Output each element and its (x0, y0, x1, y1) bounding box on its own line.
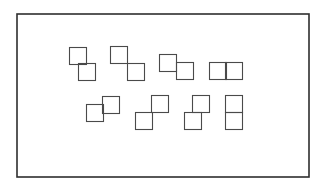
square (70, 48, 87, 65)
square (128, 64, 145, 81)
pair-6-corner-touch-up-right (136, 96, 169, 130)
pair-1-offset-overlap-down-right (70, 48, 96, 81)
pair-5-edge-offset-right-up (87, 97, 120, 122)
square (152, 96, 169, 113)
squares-diagram (0, 0, 326, 189)
square (111, 47, 128, 64)
pair-4-side-by-side-horizontal (210, 63, 243, 80)
square (103, 97, 120, 114)
square (226, 113, 243, 130)
square (160, 55, 177, 72)
square (226, 63, 243, 80)
square (210, 63, 227, 80)
pair-8-stacked-vertical (226, 96, 243, 130)
square (79, 64, 96, 81)
pair-3-edge-offset-right-down (160, 55, 194, 80)
pair-2-corner-touch-down-right (111, 47, 145, 81)
bottom-row (87, 96, 243, 130)
square (185, 113, 202, 130)
square (177, 63, 194, 80)
top-row (70, 47, 243, 81)
pair-7-offset-overlap-up-right (185, 96, 210, 130)
square (226, 96, 243, 113)
square (87, 105, 104, 122)
square-pairs (70, 47, 243, 130)
square (193, 96, 210, 113)
square (136, 113, 153, 130)
